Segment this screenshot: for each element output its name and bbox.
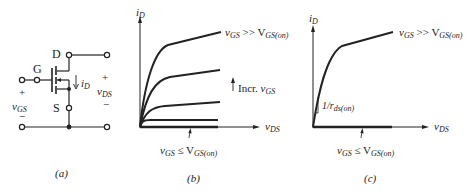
id-label: iD — [81, 77, 90, 91]
mosfet-figure: D G S iD + vGS − + vDS − (a) iD vDS vGS … — [0, 0, 473, 194]
panel-c-caption: (c) — [364, 172, 377, 185]
curve-vgs-2 — [140, 102, 220, 127]
panel-b-increase-label: Incr. vGS — [238, 82, 275, 96]
panel-b-cutoff-label: vGS ≤ VGS(on) — [160, 144, 217, 158]
panel-b-top-curve-label: vGS >> VGS(on) — [225, 26, 289, 40]
panel-a-caption: (a) — [55, 167, 68, 180]
panel-c-plot — [311, 25, 429, 138]
vgs-minus-sign: − — [19, 110, 25, 122]
panel-c-top-curve-label: vGS >> VGS(on) — [399, 26, 463, 40]
curve-vgs-3 — [140, 70, 220, 127]
panel-b-caption: (b) — [187, 172, 200, 185]
panel-b-x-label: vDS — [265, 120, 280, 134]
vds-plus-terminal — [104, 52, 109, 57]
panel-c-cutoff-label: vGS ≤ VGS(on) — [337, 144, 394, 158]
vds-minus-sign: − — [103, 98, 109, 110]
cutoff-pointer-icon — [188, 128, 191, 133]
x-axis-arrow-icon — [422, 125, 429, 129]
curve-vgs-max — [140, 32, 221, 127]
vds-label: vDS — [97, 85, 112, 99]
x-axis-arrow-icon — [253, 125, 260, 129]
vds-minus-terminal — [104, 124, 109, 129]
vgs-minus-terminal — [19, 124, 24, 129]
panel-b-y-label: iD — [136, 6, 145, 20]
source-terminal — [66, 105, 71, 110]
panel-c-slope-label: 1/rds(on) — [322, 100, 354, 113]
gate-terminal — [34, 77, 39, 82]
y-axis-arrow-icon — [311, 25, 315, 32]
source-label: S — [53, 101, 60, 115]
panel-c-x-label: vDS — [434, 120, 449, 134]
vgs-plus-terminal — [19, 77, 24, 82]
vgs-plus-sign: + — [19, 86, 25, 98]
vds-plus-sign: + — [102, 71, 108, 83]
drain-terminal — [66, 52, 71, 57]
gate-label: G — [33, 62, 42, 76]
drain-label: D — [52, 47, 61, 61]
cutoff-pointer-icon — [360, 128, 363, 133]
panel-c-y-label: iD — [309, 12, 318, 26]
substrate-arrow-icon — [57, 78, 61, 82]
